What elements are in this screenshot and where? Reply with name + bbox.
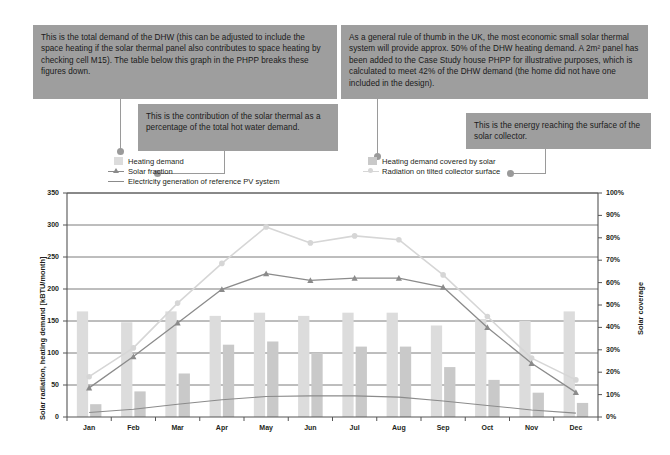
legend-label: Heating demand [128,157,184,166]
x-axis-month-label: Nov [512,424,552,431]
x-axis-month-label: Feb [113,424,153,431]
chart-canvas [0,186,670,446]
x-axis-month-label: Jun [290,424,330,431]
leader-line-dhw-vertical [120,99,121,150]
x-axis-month-label: Aug [379,424,419,431]
x-axis-month-label: May [246,424,286,431]
legend-marker-triangle [113,168,119,173]
y-axis-left-tick: 0 [35,413,59,420]
y-axis-left-tick: 350 [35,189,59,196]
leader-line-solarfraction-vertical [224,151,225,173]
legend-label: Solar fraction [128,167,173,176]
y-axis-left-title-text: Solar radiation, heating demand [kBTU/mo… [38,257,47,420]
x-axis-month-label: Sep [423,424,463,431]
legend-marker-circle [368,168,373,173]
legend-item-heating-covered: Heating demand covered by solar [382,157,496,166]
y-axis-left-tick: 100 [35,349,59,356]
solar-chart [0,186,670,446]
y-axis-right-tick: 60% [606,279,632,286]
callout-dhw-demand: This is the total demand of the DHW (thi… [33,25,337,99]
legend-swatch-heating-demand [114,157,123,165]
legend-swatch-pv-generation [108,181,124,182]
callout-text: As a general rule of thumb in the UK, th… [349,33,639,88]
y-axis-right-tick: 70% [606,256,632,263]
x-axis-month-label: Mar [158,424,198,431]
callout-rule-of-thumb: As a general rule of thumb in the UK, th… [341,25,648,99]
y-axis-right-tick: 20% [606,368,632,375]
y-axis-left-tick: 200 [35,285,59,292]
x-axis-month-label: Jan [69,424,109,431]
legend-item-solar-fraction: Solar fraction [128,167,173,176]
legend-label: Heating demand covered by solar [382,157,496,166]
leader-line-collector-vertical [545,149,546,173]
callout-collector-energy: This is the energy reaching the surface … [466,113,651,149]
y-axis-right-tick: 80% [606,234,632,241]
leader-dot-dhw [117,148,124,155]
legend-label: Radiation on tilted collector surface [382,167,500,176]
y-axis-left-tick: 250 [35,253,59,260]
leader-dot-collector [507,170,514,177]
y-axis-left-tick: 300 [35,221,59,228]
x-axis-month-label: Apr [202,424,242,431]
y-axis-right-title-text: Solar coverage [636,282,645,335]
y-axis-right-tick: 100% [606,189,632,196]
legend-item-heating-demand: Heating demand [128,157,184,166]
y-axis-right-tick: 0% [606,413,632,420]
y-axis-right-title: Solar coverage [636,282,645,335]
x-axis-month-label: Jul [335,424,375,431]
x-axis-month-label: Oct [467,424,507,431]
leader-line-collector-horizontal [511,173,546,174]
y-axis-right-tick: 90% [606,211,632,218]
y-axis-right-tick: 40% [606,323,632,330]
y-axis-right-tick: 30% [606,346,632,353]
x-axis-month-label: Dec [556,424,596,431]
legend-item-radiation: Radiation on tilted collector surface [382,167,500,176]
legend-swatch-heating-covered [368,157,377,165]
legend-item-pv-generation: Electricity generation of reference PV s… [128,177,280,186]
leader-line-ruleofthumb-vertical [377,99,378,155]
callout-text: This is the total demand of the DHW (thi… [41,33,321,76]
legend-label: Electricity generation of reference PV s… [128,177,280,186]
y-axis-left-tick: 50 [35,381,59,388]
y-axis-right-tick: 10% [606,391,632,398]
y-axis-left-title: Solar radiation, heating demand [kBTU/mo… [38,257,47,420]
callout-text: This is the energy reaching the surface … [474,121,640,141]
screenshot-root: This is the total demand of the DHW (thi… [0,0,670,455]
callout-solar-fraction: This is the contribution of the solar th… [138,104,338,151]
y-axis-right-tick: 50% [606,301,632,308]
callout-text: This is the contribution of the solar th… [146,112,321,132]
y-axis-left-tick: 150 [35,317,59,324]
